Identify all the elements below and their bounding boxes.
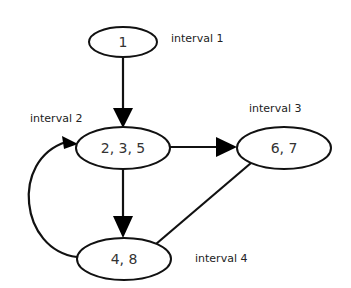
interval-1-label: interval 1 <box>171 32 223 45</box>
node-2-3-5: 2, 3, 5 <box>76 127 170 169</box>
interval-graph: 1 2, 3, 5 6, 7 4, 8 interval 1 interval … <box>0 0 351 288</box>
arrowhead-icon <box>113 108 133 128</box>
node-6-7: 6, 7 <box>237 127 331 169</box>
arrowhead-icon <box>113 216 133 238</box>
node-2-3-5-label: 2, 3, 5 <box>101 140 146 156</box>
edge-67-to-48 <box>156 163 251 244</box>
node-1-label: 1 <box>119 34 128 50</box>
interval-2-label: interval 2 <box>30 112 82 125</box>
node-1: 1 <box>89 27 157 57</box>
node-4-8-label: 4, 8 <box>111 251 138 267</box>
node-4-8: 4, 8 <box>77 238 171 280</box>
node-6-7-label: 6, 7 <box>271 140 298 156</box>
arrowhead-icon <box>216 137 237 157</box>
interval-4-label: interval 4 <box>195 252 247 265</box>
interval-3-label: interval 3 <box>249 102 301 115</box>
edge-48-to-235-loop <box>29 142 77 257</box>
